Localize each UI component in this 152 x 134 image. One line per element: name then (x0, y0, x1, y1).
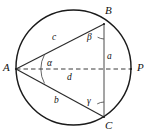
circumcircle (16, 10, 131, 125)
vertex-dot-C (103, 116, 105, 118)
angle-label-gamma: γ (87, 97, 91, 107)
vertex-dot-P (130, 68, 132, 70)
side-label-a: a (107, 52, 112, 62)
arc-gamma-icon (97, 102, 104, 104)
angle-label-beta: β (87, 33, 92, 43)
arc-beta-icon (98, 37, 104, 39)
side-label-c: c (52, 33, 56, 43)
angle-label-alpha: α (47, 59, 52, 69)
side-label-b: b (54, 96, 59, 106)
segment-AC (16, 69, 104, 117)
vertex-dot-A (15, 68, 17, 70)
side-label-d: d (67, 73, 72, 83)
vertex-label-A: A (3, 62, 10, 73)
figure-canvas (0, 0, 152, 134)
geometry-figure: A B C P c a d b α β γ (0, 0, 152, 134)
vertex-label-C: C (105, 120, 112, 131)
vertex-label-P: P (137, 62, 144, 73)
vertex-dot-B (103, 23, 105, 25)
vertex-label-B: B (105, 5, 112, 16)
